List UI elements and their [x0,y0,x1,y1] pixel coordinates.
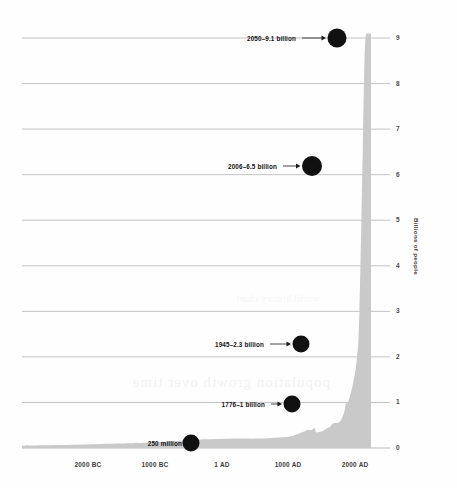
y-tick-label-9: 9 [396,34,418,41]
data-point-marker-a1776 [284,396,301,413]
annotation-label-a1776: 1776–1 billion [222,401,265,408]
x-tick-label-2000-bc: 2000 BC [75,461,102,468]
gridlines [22,38,390,448]
data-point-marker-a2050 [328,29,347,48]
population-area-fill [22,33,371,448]
x-tick-label-1000-ad: 1000 AD [275,461,302,468]
arrow-head-a2006 [296,164,301,169]
y-tick-label-6: 6 [396,171,418,178]
annotation-label-a250m: 250 million [148,440,182,447]
y-tick-label-7: 7 [396,125,418,132]
population-curve [22,33,371,448]
data-point-marker-a2006 [302,156,322,176]
annotation-markers [183,29,347,452]
chart-plot-area [0,0,457,488]
y-tick-label-3: 3 [396,307,418,314]
y-tick-label-0: 0 [396,444,418,451]
y-tick-label-8: 8 [396,80,418,87]
y-tick-label-2: 2 [396,353,418,360]
arrow-head-a1945 [287,342,292,347]
data-point-marker-a1945 [293,336,310,353]
population-area-chart: population growth over time world histor… [0,0,457,488]
x-tick-label-1000-bc: 1000 BC [142,461,169,468]
annotation-label-a2050: 2050–9.1 billion [247,35,296,42]
x-tick-label-2000-ad: 2000 AD [342,461,369,468]
data-point-marker-a250m [183,435,200,452]
annotation-label-a2006: 2006–6.5 billion [228,163,277,170]
y-axis-title: Billions of people [413,218,420,275]
x-tick-label-1-ad: 1 AD [214,461,229,468]
arrow-head-a2050 [322,36,327,41]
annotation-label-a1945: 1945–2.3 billion [215,341,264,348]
y-tick-label-1: 1 [396,398,418,405]
